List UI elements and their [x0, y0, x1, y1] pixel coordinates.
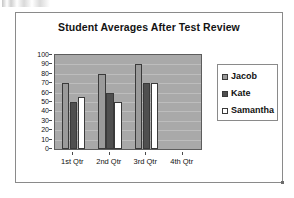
bar-kate-3[interactable] — [143, 83, 151, 149]
y-axis-tick-label: 70 — [41, 79, 49, 86]
x-axis: 1st Qtr2nd Qtr3rd Qtr4th Qtr — [54, 152, 202, 168]
plot-area[interactable] — [54, 54, 202, 150]
y-axis-tick-mark — [49, 139, 52, 140]
y-axis-tick-label: 10 — [41, 135, 49, 142]
bar-kate-2[interactable] — [106, 93, 114, 149]
x-axis-tick-label: 3rd Qtr — [127, 157, 164, 166]
x-axis-tick-label: 4th Qtr — [164, 157, 201, 166]
y-axis-tick-mark — [49, 73, 52, 74]
bar-samantha-1[interactable] — [78, 97, 86, 149]
legend-item-jacob[interactable]: Jacob — [222, 72, 257, 81]
y-axis-tick-mark — [49, 101, 52, 102]
chart-object-frame[interactable]: Student Averages After Test Review 10090… — [15, 12, 283, 183]
legend-swatch-icon — [222, 91, 228, 97]
legend-swatch-icon — [222, 108, 228, 114]
chart-legend[interactable]: JacobKateSamantha — [217, 64, 278, 121]
y-axis-tick-label: 40 — [41, 107, 49, 114]
y-axis-tick-mark — [49, 92, 52, 93]
x-axis-tick-mark — [182, 152, 183, 155]
x-axis-tick-label: 1st Qtr — [54, 157, 91, 166]
legend-item-label: Kate — [231, 89, 251, 98]
y-axis-tick-mark — [49, 129, 52, 130]
y-axis-tick-mark — [49, 82, 52, 83]
y-axis-tick-mark — [49, 148, 52, 149]
y-axis-tick-label: 30 — [41, 116, 49, 123]
legend-item-kate[interactable]: Kate — [222, 89, 251, 98]
bar-samantha-2[interactable] — [114, 102, 122, 149]
bar-jacob-1[interactable] — [62, 83, 70, 149]
y-axis-tick-label: 100 — [37, 51, 49, 58]
bar-jacob-3[interactable] — [135, 64, 143, 149]
y-axis-tick-label: 50 — [41, 98, 49, 105]
bar-jacob-2[interactable] — [98, 74, 106, 149]
bar-kate-1[interactable] — [70, 102, 78, 149]
legend-swatch-icon — [222, 74, 228, 80]
legend-item-samantha[interactable]: Samantha — [222, 106, 274, 115]
bar-group — [165, 55, 202, 149]
y-axis-tick-mark — [49, 54, 52, 55]
y-axis-tick-mark — [49, 63, 52, 64]
x-axis-tick-label: 2nd Qtr — [91, 157, 128, 166]
bar-group — [128, 55, 165, 149]
bar-group — [92, 55, 129, 149]
x-axis-tick-mark — [109, 152, 110, 155]
legend-item-label: Jacob — [231, 72, 257, 81]
x-axis-tick-mark — [145, 152, 146, 155]
y-axis-tick-label: 90 — [41, 60, 49, 67]
y-axis-tick-mark — [49, 120, 52, 121]
y-axis-tick-mark — [49, 110, 52, 111]
chart-title: Student Averages After Test Review — [16, 21, 282, 33]
bar-samantha-3[interactable] — [151, 83, 159, 149]
legend-item-label: Samantha — [231, 106, 274, 115]
y-axis-tick-label: 80 — [41, 69, 49, 76]
scan-artifact — [2, 0, 62, 7]
x-axis-tick-mark — [72, 152, 73, 155]
y-axis-tick-label: 60 — [41, 88, 49, 95]
y-axis-tick-label: 20 — [41, 126, 49, 133]
y-axis: 1009080706050403020100 — [24, 51, 52, 153]
bar-group — [55, 55, 92, 149]
